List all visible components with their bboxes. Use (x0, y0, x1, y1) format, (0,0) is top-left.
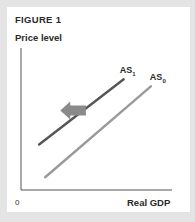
shift-left-arrow-icon (60, 101, 86, 119)
curve-label-as1: AS1 (120, 65, 137, 77)
curve-label-as0: AS0 (150, 72, 167, 84)
plot-area: AS1AS0 (0, 0, 195, 222)
